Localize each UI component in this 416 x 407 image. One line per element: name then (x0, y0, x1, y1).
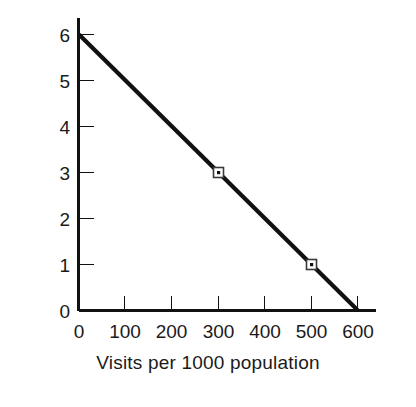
y-tick-label-5: 5 (48, 71, 70, 90)
y-tick-label-4: 4 (48, 117, 70, 136)
x-axis-title: Visits per 1000 population (0, 352, 416, 374)
axis-lines (79, 18, 377, 311)
x-tick-label-300: 300 (203, 322, 235, 341)
y-tick-label-2: 2 (48, 209, 70, 228)
x-tick-label-200: 200 (156, 322, 188, 341)
chart-figure: 6 5 4 3 2 1 0 0 100 200 300 400 500 600 … (0, 0, 416, 407)
data-point-300-3 (214, 168, 224, 178)
x-tick-label-400: 400 (249, 322, 281, 341)
x-tick-label-100: 100 (109, 322, 141, 341)
x-axis-ticks (125, 296, 358, 310)
y-tick-label-6: 6 (48, 25, 70, 44)
y-axis-title-wrapper: Travel cost ($/visit) (14, 18, 40, 318)
chart-plot-area (0, 0, 416, 407)
x-tick-label-500: 500 (296, 322, 328, 341)
y-tick-label-3: 3 (48, 163, 70, 182)
y-tick-label-0: 0 (48, 301, 70, 320)
y-tick-label-1: 1 (48, 255, 70, 274)
x-tick-label-0: 0 (74, 322, 85, 341)
y-axis-ticks (79, 35, 94, 265)
x-tick-label-600: 600 (342, 322, 374, 341)
data-point-500-1 (307, 260, 317, 270)
